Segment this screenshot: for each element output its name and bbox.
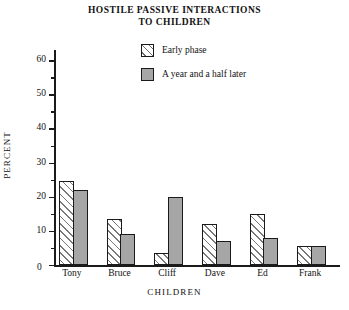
bar-cliff-later [168,197,183,265]
x-category-cliff: Cliff [158,268,176,279]
y-tick-label-40: 40 [37,124,47,134]
y-tick-10 [49,231,55,232]
y-tick-label-30: 30 [37,158,47,168]
chart-title: HOSTILE PASSIVE INTERACTIONS TO CHILDREN [0,4,349,28]
y-tick-15 [51,214,54,215]
y-axis-label: PERCENT [2,131,12,179]
y-tick-35 [51,146,54,147]
y-tick-20 [49,197,55,198]
y-tick-60 [49,60,55,61]
bar-tony-later [73,190,88,265]
y-tick-label-20: 20 [37,192,47,202]
x-axis-category-labels: TonyBruceCliffDaveEdFrank [54,268,340,282]
plot-area: 102030405060 [54,50,340,265]
y-tick-label-50: 50 [37,90,47,100]
y-tick-label-10: 10 [37,226,47,236]
bar-group-dave [202,224,231,265]
bar-frank-later [311,246,326,265]
bar-ed-later [263,238,278,265]
bar-dave-later [216,241,231,265]
y-tick-50 [49,94,55,95]
bar-group-bruce [107,219,136,265]
x-axis-label: CHILDREN [0,287,349,297]
bar-group-cliff [154,197,183,265]
bar-group-frank [297,246,326,265]
y-tick-5 [51,248,54,249]
x-category-tony: Tony [62,268,81,279]
bar-group-ed [250,214,279,265]
bar-chart: HOSTILE PASSIVE INTERACTIONS TO CHILDREN… [0,0,349,310]
y-axis-zero-label: 0 [37,262,42,272]
y-tick-30 [49,163,55,164]
y-tick-0 [49,265,55,266]
chart-title-line2: TO CHILDREN [0,16,349,28]
x-category-ed: Ed [257,268,268,279]
chart-title-line1: HOSTILE PASSIVE INTERACTIONS [88,5,261,15]
x-category-dave: Dave [205,268,225,279]
y-tick-label-60: 60 [37,55,47,65]
y-tick-45 [51,111,54,112]
y-tick-40 [49,128,55,129]
x-category-bruce: Bruce [108,268,131,279]
y-tick-55 [51,77,54,78]
y-tick-25 [51,180,54,181]
bar-series-container [56,50,340,265]
bar-bruce-later [120,234,135,265]
x-axis [54,265,340,267]
x-category-frank: Frank [299,268,321,279]
bar-group-tony [59,181,88,265]
